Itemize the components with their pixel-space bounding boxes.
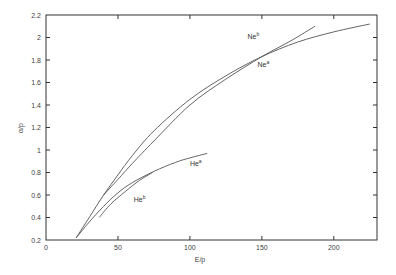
y-tick-label: 1.8: [31, 57, 41, 64]
series-labels: NeaNebHeaHeb: [134, 31, 270, 203]
y-tick-label: 1.2: [31, 124, 41, 131]
series-line-ne-b: [104, 26, 316, 195]
y-tick-label: 1.4: [31, 102, 41, 109]
y-tick-label: 1: [37, 147, 41, 154]
y-tick-label: 0.6: [31, 192, 41, 199]
y-tick-label: 2: [37, 34, 41, 41]
x-tick-label: 150: [256, 244, 268, 251]
x-tick-label: 100: [184, 244, 196, 251]
y-tick-label: 2.2: [31, 12, 41, 19]
series-line-ne-a: [76, 24, 370, 238]
x-tick-label: 200: [328, 244, 340, 251]
series-layer: [76, 24, 370, 238]
y-tick-label: 0.2: [31, 237, 41, 244]
y-axis-label: α/p: [17, 123, 25, 133]
series-label-he-b: Heb: [134, 194, 146, 203]
series-label-he-a: Hea: [190, 158, 202, 167]
x-tick-label: 0: [44, 244, 48, 251]
axis-ticks: 0501001502000.20.40.60.811.21.41.61.822.…: [31, 12, 377, 252]
plot-frame: [46, 15, 377, 240]
x-tick-label: 50: [114, 244, 122, 251]
y-tick-label: 0.4: [31, 214, 41, 221]
x-axis-label: E/p: [195, 256, 206, 264]
y-tick-label: 0.8: [31, 169, 41, 176]
y-tick-label: 1.6: [31, 79, 41, 86]
line-chart: 0501001502000.20.40.60.811.21.41.61.822.…: [0, 0, 396, 275]
series-label-ne-b: Neb: [247, 31, 259, 40]
series-label-ne-a: Nea: [258, 59, 270, 68]
